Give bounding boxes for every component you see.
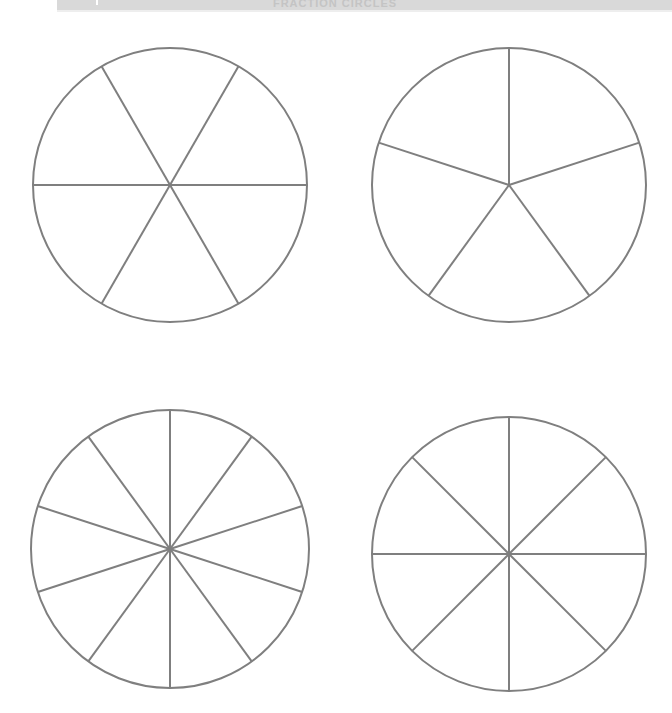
sector-divider — [509, 143, 639, 185]
header-band-left-gap — [0, 0, 57, 10]
header-band-tick — [96, 0, 98, 5]
sector-divider — [102, 66, 171, 185]
sector-divider — [88, 549, 170, 661]
fraction-circle-fifths-graphic — [339, 11, 672, 371]
sector-divider — [170, 506, 302, 549]
sector-divider — [102, 185, 171, 304]
fraction-circle-eighths-graphic — [339, 375, 672, 713]
fraction-circle-sixths-graphic — [0, 11, 340, 371]
sector-divider — [379, 143, 509, 185]
sector-divider — [88, 437, 170, 549]
sector-divider — [170, 549, 302, 592]
page-header-band: FRACTION CIRCLES — [0, 0, 672, 11]
fraction-circles-sheet — [0, 11, 672, 713]
fraction-circle-eighths[interactable] — [339, 375, 672, 713]
sector-divider — [509, 457, 606, 554]
sector-divider — [170, 437, 252, 549]
fraction-circle-tenths-graphic — [0, 375, 340, 713]
sector-divider — [428, 185, 509, 296]
fraction-circle-sixths[interactable] — [0, 11, 340, 371]
sector-divider — [170, 66, 239, 185]
page-title: FRACTION CIRCLES — [230, 0, 440, 9]
sector-divider — [509, 185, 590, 296]
sector-divider — [170, 549, 252, 661]
sector-divider — [38, 549, 170, 592]
sector-divider — [170, 185, 239, 304]
sector-divider — [509, 554, 606, 651]
fraction-circle-fifths[interactable] — [339, 11, 672, 371]
sector-divider — [412, 457, 509, 554]
sector-divider — [412, 554, 509, 651]
fraction-circle-tenths[interactable] — [0, 375, 340, 713]
sector-divider — [38, 506, 170, 549]
